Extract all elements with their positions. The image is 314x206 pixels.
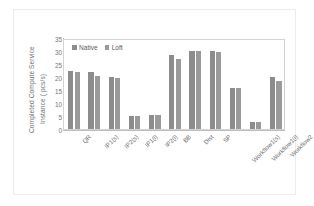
bar-native	[68, 71, 73, 129]
bar-loft	[216, 52, 221, 129]
bar-native	[149, 115, 154, 129]
bar-native	[109, 77, 114, 129]
bar-loft	[95, 76, 100, 129]
y-axis-tick-label: 15	[55, 88, 62, 95]
bar-native	[189, 51, 194, 129]
y-axis-tick-label: 10	[55, 101, 62, 108]
bar-group	[145, 40, 165, 129]
y-axis-tick-label: 20	[55, 75, 62, 82]
bar-group	[104, 40, 124, 129]
x-axis-tick-label: IP2(l)	[163, 133, 178, 148]
x-axis-tick-label: Dist	[202, 133, 214, 145]
bar-loft	[176, 59, 181, 129]
bar-group	[205, 40, 225, 129]
bar-loft	[115, 78, 120, 129]
bar-native	[230, 88, 235, 129]
bar-loft	[155, 115, 160, 129]
chart-figure: Completed Compute Service Instance ( pcs…	[0, 0, 309, 206]
bar-native	[129, 116, 134, 129]
bar-native	[250, 122, 255, 129]
bar-group	[84, 40, 104, 129]
bar-loft	[276, 81, 281, 129]
bar-native	[210, 51, 215, 129]
y-axis-tick-label: 25	[55, 62, 62, 69]
y-axis-title-line-1: Completed Compute Service	[28, 46, 35, 133]
bar-loft	[196, 51, 201, 129]
bars-layer	[64, 40, 284, 129]
bar-group	[225, 40, 245, 129]
bar-group	[246, 40, 266, 129]
x-axis-tick-label: BB	[181, 133, 192, 144]
x-axis-tick-label: SP	[222, 133, 233, 144]
x-axis-tick-label: QR	[81, 133, 93, 145]
bar-native	[169, 55, 174, 129]
bar-native	[88, 72, 93, 129]
bar-group	[266, 40, 286, 129]
x-axis-tick-label: IP2(s)	[123, 133, 140, 150]
x-axis-tick-label: IP1(l)	[143, 133, 158, 148]
bar-native	[270, 77, 275, 129]
bar-loft	[236, 88, 241, 129]
bar-loft	[135, 116, 140, 129]
x-axis-tick-label: IP1(s)	[103, 133, 120, 150]
plot-area: NativeLoft	[63, 39, 285, 130]
x-axis-tick-labels: QRIP1(s)IP2(s)IP1(l)IP2(l)BBDistSPWorkfl…	[63, 131, 285, 191]
bar-group	[185, 40, 205, 129]
bar-loft	[256, 122, 261, 129]
y-axis-tick-label: 30	[55, 49, 62, 56]
bar-loft	[75, 72, 80, 129]
y-axis-tick-labels: 35302520151050	[44, 33, 62, 136]
bar-group	[64, 40, 84, 129]
y-axis-tick-label: 5	[58, 114, 62, 121]
y-axis-tick-label: 0	[58, 127, 62, 134]
y-axis-tick-label: 35	[55, 36, 62, 43]
bar-group	[125, 40, 145, 129]
bar-group	[165, 40, 185, 129]
